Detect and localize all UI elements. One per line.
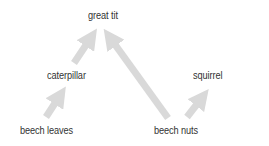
node-caterpillar: caterpillar	[47, 70, 86, 81]
node-great-tit: great tit	[88, 10, 118, 21]
food-web-diagram: great tit caterpillar squirrel beech lea…	[0, 0, 269, 146]
node-beech-leaves: beech leaves	[20, 125, 73, 136]
node-squirrel: squirrel	[193, 70, 222, 81]
node-beech-nuts: beech nuts	[154, 125, 198, 136]
arrow-caterpillar-to-great-tit	[74, 39, 90, 63]
arrow-beech-nuts-to-great-tit	[111, 39, 168, 118]
arrow-beech-leaves-to-caterpillar	[46, 97, 59, 117]
arrow-beech-nuts-to-squirrel	[187, 99, 201, 117]
